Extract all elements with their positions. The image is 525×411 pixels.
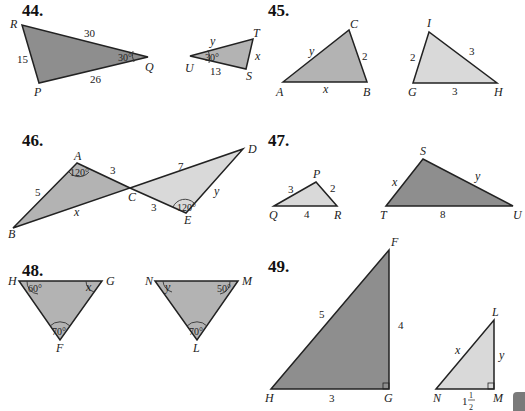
vertex-label: H <box>493 85 504 99</box>
vertex-label: T <box>380 208 388 222</box>
vertex-label: B <box>363 85 371 99</box>
side-label: 30 <box>84 27 96 39</box>
angle-label: 70° <box>52 326 66 337</box>
vertex-label: E <box>183 213 192 227</box>
exercise-page: 44. 30° R P Q 30 15 26 30° T U S y x 13 … <box>0 0 525 411</box>
triangle-GIH <box>413 32 497 83</box>
side-label: x <box>73 205 80 219</box>
problem-number: 49. <box>268 257 289 276</box>
vertex-label: F <box>55 341 64 355</box>
vertex-label: G <box>384 391 393 405</box>
vertex-label: S <box>420 144 426 158</box>
angle-label: 70° <box>189 326 203 337</box>
triangle-NLM <box>436 320 494 389</box>
angle-label: x <box>85 280 92 294</box>
triangle-TSU <box>386 159 513 206</box>
angle-label: 60° <box>28 283 42 294</box>
side-label: 3 <box>151 201 157 213</box>
side-label: 3 <box>469 45 475 57</box>
problem-number: 46. <box>22 131 43 150</box>
angle-label: 30° <box>205 52 219 63</box>
side-label-mixed-fraction: 1 1 2 <box>462 391 475 411</box>
problem-46: 46. 120° 120° A B C D E 5 3 x 7 3 y <box>8 131 257 241</box>
vertex-label: I <box>426 16 432 30</box>
vertex-label: G <box>408 85 417 99</box>
fraction-denominator: 2 <box>469 403 473 411</box>
vertex-label: P <box>312 167 321 181</box>
side-label: x <box>254 49 261 63</box>
vertex-label: Q <box>269 208 278 222</box>
angle-label: 120° <box>177 202 196 213</box>
vertex-label: A <box>73 149 82 163</box>
angle-label: 50° <box>217 283 231 294</box>
problem-49: 49. F G H 5 4 3 L M N x y 1 1 2 <box>264 235 505 411</box>
vertex-label: Q <box>145 60 154 74</box>
problem-47: 47. P Q R 3 2 4 S T U x y 8 <box>268 131 523 222</box>
side-label: 2 <box>330 182 336 194</box>
vertex-label: N <box>432 391 442 405</box>
side-label: x <box>391 175 398 189</box>
problem-44: 44. 30° R P Q 30 15 26 30° T U S y x 13 <box>9 1 261 99</box>
triangle-QPR <box>274 182 337 206</box>
vertex-label: T <box>253 26 261 40</box>
side-label: y <box>474 169 481 183</box>
problem-number: 47. <box>268 131 289 150</box>
vertex-label: H <box>7 274 18 288</box>
page-edge-tab <box>513 392 525 411</box>
triangle-ABC <box>283 30 367 82</box>
angle-label: 30° <box>118 52 132 63</box>
problem-number: 48. <box>22 261 43 280</box>
side-label: y <box>209 34 216 48</box>
side-label: 15 <box>17 53 29 65</box>
side-label: x <box>454 343 461 357</box>
problem-number: 44. <box>22 1 43 20</box>
side-label: 4 <box>398 319 404 331</box>
side-label: y <box>498 348 505 362</box>
fraction-whole: 1 <box>462 395 468 407</box>
vertex-label: S <box>246 69 252 83</box>
vertex-label: N <box>144 274 154 288</box>
vertex-label: M <box>492 391 504 405</box>
vertex-label: H <box>264 391 275 405</box>
vertex-label: G <box>106 274 115 288</box>
vertex-label: P <box>33 85 42 99</box>
problem-45: 45. A B C y 2 x I G H 2 3 3 <box>268 1 504 99</box>
side-label: 8 <box>440 208 446 220</box>
vertex-label: L <box>491 305 499 319</box>
vertex-label: M <box>241 274 253 288</box>
side-label: y <box>213 184 220 198</box>
side-label: 3 <box>110 164 116 176</box>
side-label: 5 <box>319 308 325 320</box>
vertex-label: B <box>8 227 16 241</box>
vertex-label: C <box>350 17 359 31</box>
side-label: 2 <box>410 51 416 63</box>
side-label: 5 <box>35 186 41 198</box>
vertex-label: F <box>390 235 399 249</box>
side-label: 3 <box>288 183 294 195</box>
side-label: 4 <box>304 208 310 220</box>
side-label: y <box>308 44 315 58</box>
vertex-label: U <box>513 208 523 222</box>
side-label: 13 <box>210 65 222 77</box>
angle-label: 120° <box>70 167 89 178</box>
side-label: 7 <box>178 160 184 172</box>
vertex-label: L <box>192 341 200 355</box>
triangle-UTS <box>190 39 253 69</box>
side-label: 3 <box>452 85 458 97</box>
side-label: 26 <box>90 73 102 85</box>
vertex-label: R <box>9 17 18 31</box>
vertex-label: D <box>247 142 257 156</box>
fraction-numerator: 1 <box>469 391 473 400</box>
vertex-label: C <box>128 190 137 204</box>
vertex-label: A <box>275 85 284 99</box>
problem-48: 48. 60° x 70° H G F y 50° 70° N M L <box>7 261 253 355</box>
side-label: 2 <box>362 50 368 62</box>
vertex-label: U <box>185 61 195 75</box>
angle-label: y <box>164 280 171 294</box>
side-label: 3 <box>329 392 335 404</box>
vertex-label: R <box>333 208 342 222</box>
problem-number: 45. <box>268 1 289 20</box>
side-label: x <box>322 82 329 96</box>
